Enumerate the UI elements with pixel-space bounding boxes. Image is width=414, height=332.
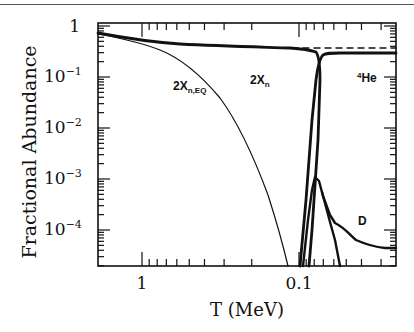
x-axis-label: T (MeV): [210, 299, 284, 320]
svg-text:10−2: 10−2: [44, 116, 82, 137]
svg-text:10−1: 10−1: [44, 65, 82, 86]
y-tick-label-1e-3: 10−3: [44, 167, 82, 188]
svg-text:10−3: 10−3: [44, 167, 82, 188]
x-tick-label-1: 1: [137, 273, 148, 293]
y-tick-label-1e-1: 10−1: [44, 65, 82, 86]
curve-2xn: [98, 33, 320, 266]
y-axis-label: Fractional Abundance: [18, 45, 40, 258]
y-tick-label-1: 1: [69, 16, 80, 36]
svg-text:2Xn: 2Xn: [250, 73, 270, 89]
svg-text:4He: 4He: [357, 71, 377, 85]
nucleosynthesis-chart: Fractional Abundance 1 10−1 10−2 10−3 10…: [0, 0, 414, 332]
svg-text:10−4: 10−4: [44, 218, 82, 239]
annotation-d: D: [358, 214, 367, 228]
y-tick-label-1e-2: 10−2: [44, 116, 82, 137]
y-tick-label-1e-4: 10−4: [44, 218, 82, 239]
curve-d: [303, 177, 396, 266]
curves: [98, 33, 396, 266]
curve-2xn-eq: [98, 34, 288, 266]
svg-text:2Xn,EQ: 2Xn,EQ: [173, 79, 206, 95]
annotation-4he: 4He: [357, 71, 377, 85]
annotation-2xn-eq: 2Xn,EQ: [173, 79, 206, 95]
curve-d-branch: [322, 192, 340, 266]
x-tick-label-0.1: 0.1: [285, 273, 312, 293]
annotation-2xn: 2Xn: [250, 73, 270, 89]
